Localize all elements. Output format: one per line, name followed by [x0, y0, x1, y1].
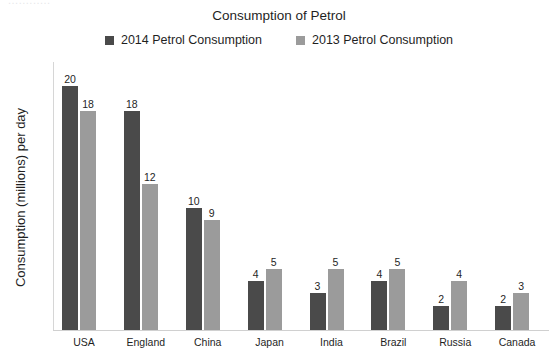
- bar-column: 10: [186, 62, 202, 330]
- bar-column: 4: [248, 62, 264, 330]
- bar-value-label: 2: [438, 294, 444, 305]
- bar-column: 18: [124, 62, 140, 330]
- x-axis-category-label: Canada: [486, 336, 548, 348]
- legend-item-2014[interactable]: 2014 Petrol Consumption: [105, 33, 262, 47]
- bar-column: 4: [451, 62, 467, 330]
- bar-pair: 45: [239, 62, 301, 330]
- bar[interactable]: [328, 269, 344, 330]
- x-axis-category-label: India: [301, 336, 363, 348]
- bar-group: 109China: [177, 62, 239, 330]
- bar-value-label: 4: [376, 269, 382, 280]
- bar-pair: 1812: [115, 62, 177, 330]
- legend-swatch-2013: [296, 36, 305, 45]
- bar-value-label: 5: [394, 257, 400, 268]
- chart-legend: 2014 Petrol Consumption 2013 Petrol Cons…: [0, 33, 558, 47]
- x-axis-category-label: USA: [53, 336, 115, 348]
- bar-column: 12: [142, 62, 158, 330]
- bar-column: 9: [204, 62, 220, 330]
- bar-value-label: 4: [456, 269, 462, 280]
- bar-column: 5: [266, 62, 282, 330]
- y-axis-title-text: Consumption (millions) per day: [14, 107, 29, 286]
- bar-value-label: 5: [333, 257, 339, 268]
- bar-group: 45Japan: [239, 62, 301, 330]
- scan-artifact-text: ............: [8, 0, 51, 6]
- bar-value-label: 12: [144, 172, 156, 183]
- y-axis-title: Consumption (millions) per day: [12, 72, 30, 322]
- x-axis-category-label: Japan: [239, 336, 301, 348]
- bar[interactable]: [451, 281, 467, 330]
- bar-value-label: 18: [82, 99, 94, 110]
- bar-value-label: 2: [500, 294, 506, 305]
- bar-column: 3: [310, 62, 326, 330]
- bar[interactable]: [62, 86, 78, 330]
- bar-value-label: 9: [209, 208, 215, 219]
- bar-group: 2018USA: [53, 62, 115, 330]
- bar[interactable]: [371, 281, 387, 330]
- bar-pair: 45: [362, 62, 424, 330]
- bar-column: 2: [433, 62, 449, 330]
- bar-group: 24Russia: [424, 62, 486, 330]
- bar-column: 3: [513, 62, 529, 330]
- bar-pair: 109: [177, 62, 239, 330]
- bar-pair: 2018: [53, 62, 115, 330]
- bar[interactable]: [248, 281, 264, 330]
- x-axis-category-label: England: [115, 336, 177, 348]
- bar[interactable]: [513, 293, 529, 330]
- bar-pair: 35: [301, 62, 363, 330]
- bar[interactable]: [204, 220, 220, 330]
- x-axis-category-label: Brazil: [362, 336, 424, 348]
- bar-column: 5: [389, 62, 405, 330]
- bar[interactable]: [142, 184, 158, 330]
- x-axis-category-label: China: [177, 336, 239, 348]
- bar-pair: 24: [424, 62, 486, 330]
- bar-column: 5: [328, 62, 344, 330]
- legend-item-2013[interactable]: 2013 Petrol Consumption: [296, 33, 453, 47]
- legend-label-2013: 2013 Petrol Consumption: [312, 33, 453, 47]
- bar[interactable]: [495, 306, 511, 330]
- bar-value-label: 20: [64, 74, 76, 85]
- bar[interactable]: [124, 111, 140, 330]
- bar-group: 1812England: [115, 62, 177, 330]
- bar-groups: 2018USA1812England109China45Japan35India…: [53, 62, 548, 330]
- bar-value-label: 10: [188, 196, 200, 207]
- bar-column: 18: [80, 62, 96, 330]
- bar[interactable]: [389, 269, 405, 330]
- chart-title: Consumption of Petrol: [0, 8, 558, 23]
- x-axis-line: [53, 330, 549, 331]
- bar-value-label: 3: [518, 281, 524, 292]
- bar[interactable]: [266, 269, 282, 330]
- bar[interactable]: [186, 208, 202, 330]
- bar-group: 35India: [301, 62, 363, 330]
- bar-column: 20: [62, 62, 78, 330]
- bar[interactable]: [433, 306, 449, 330]
- bar-pair: 23: [486, 62, 548, 330]
- legend-label-2014: 2014 Petrol Consumption: [121, 33, 262, 47]
- bar-value-label: 4: [253, 269, 259, 280]
- bar-column: 2: [495, 62, 511, 330]
- bar-value-label: 18: [126, 99, 138, 110]
- bar-value-label: 5: [271, 257, 277, 268]
- bar[interactable]: [80, 111, 96, 330]
- bar-column: 4: [371, 62, 387, 330]
- bar-value-label: 3: [315, 281, 321, 292]
- bar[interactable]: [310, 293, 326, 330]
- legend-swatch-2014: [105, 36, 114, 45]
- x-axis-category-label: Russia: [424, 336, 486, 348]
- bar-group: 45Brazil: [362, 62, 424, 330]
- bar-group: 23Canada: [486, 62, 548, 330]
